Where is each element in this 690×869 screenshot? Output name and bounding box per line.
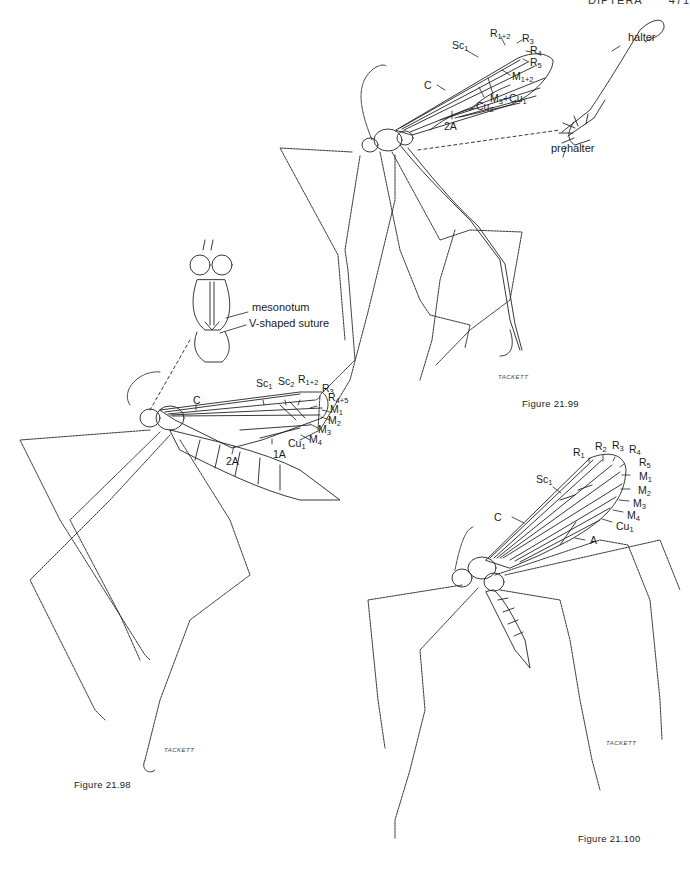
label-halter: halter <box>628 32 656 43</box>
label-Cu1: Cu1 <box>288 438 306 451</box>
label-1A: 1A <box>273 449 286 460</box>
label-Sc1: Sc1 <box>452 40 468 53</box>
artist-signature: TACKETT <box>498 374 528 380</box>
label-C: C <box>193 395 201 406</box>
label-2A: 2A <box>226 456 239 467</box>
label-leaders <box>196 37 630 540</box>
label-R1+2: R1+2 <box>490 28 510 41</box>
label-A: A <box>590 535 597 546</box>
label-2A: 2A <box>444 121 457 132</box>
label-M1+2: M1+2 <box>512 71 533 84</box>
label-Sc1: Sc1 <box>536 474 552 487</box>
label-R3: R3 <box>612 440 624 453</box>
fig-21-99-illustration <box>280 20 664 440</box>
label-R2: R2 <box>595 441 607 454</box>
label-R5: R5 <box>639 457 651 470</box>
label-prehalter: prehalter <box>551 143 594 154</box>
artist-signature: TACKETT <box>606 740 636 746</box>
label-M3+Cu1: M3+Cu1 <box>490 93 527 106</box>
label-C: C <box>494 512 502 523</box>
textbook-page: DIPTERA471 <box>0 0 690 869</box>
figure-caption: Figure 21.100 <box>578 833 641 844</box>
label-M1: M1 <box>639 471 652 484</box>
line-art <box>0 0 690 869</box>
figure-caption: Figure 21.99 <box>522 398 579 409</box>
label-Cu2: Cu2 <box>476 101 494 114</box>
label-Cu1: Cu1 <box>616 521 634 534</box>
label-C: C <box>424 80 432 91</box>
label-Sc1: Sc1 <box>256 378 272 391</box>
label-R1: R1 <box>573 447 585 460</box>
label-R5: R5 <box>530 57 542 70</box>
label-M2: M2 <box>638 485 651 498</box>
artist-signature: TACKETT <box>164 747 194 753</box>
label-R1+2: R1+2 <box>298 374 318 387</box>
figure-caption: Figure 21.98 <box>74 779 131 790</box>
label-mesonotum: mesonotum <box>252 302 309 313</box>
label-v-shaped-suture: V-shaped suture <box>249 318 329 329</box>
label-M4: M4 <box>309 434 322 447</box>
label-Sc2: Sc2 <box>278 376 294 389</box>
label-R4: R4 <box>629 444 641 457</box>
